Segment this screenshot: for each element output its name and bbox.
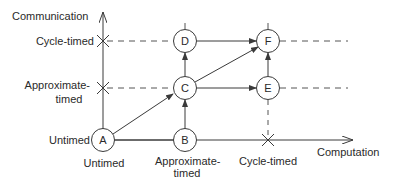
x-axis-label: Computation: [317, 146, 379, 158]
node-c: C: [174, 77, 197, 100]
y-level-approx-line2: timed: [49, 93, 89, 105]
node-a-label: A: [99, 134, 107, 146]
x-level-approx-line2: timed: [155, 167, 219, 179]
x-level-approx-line1: Approximate-: [155, 155, 219, 167]
edge-c-f: [195, 47, 258, 82]
y-level-untimed: Untimed: [49, 134, 90, 146]
x-level-cycle-timed: Cycle-timed: [233, 155, 303, 167]
node-f: F: [257, 30, 280, 53]
node-b: B: [174, 129, 197, 152]
node-c-label: C: [181, 82, 189, 94]
node-b-label: B: [181, 134, 188, 146]
y-axis-label: Communication: [12, 10, 88, 22]
node-a: A: [92, 129, 115, 152]
y-level-approx-line1: Approximate-: [25, 79, 90, 91]
node-f-label: F: [265, 35, 272, 47]
node-e: E: [257, 77, 280, 100]
x-level-untimed: Untimed: [83, 157, 125, 169]
y-level-cycle-timed: Cycle-timed: [36, 35, 94, 47]
edge-a-c: [113, 94, 173, 134]
node-e-label: E: [264, 82, 271, 94]
node-d-label: D: [181, 35, 189, 47]
node-d: D: [174, 30, 197, 53]
